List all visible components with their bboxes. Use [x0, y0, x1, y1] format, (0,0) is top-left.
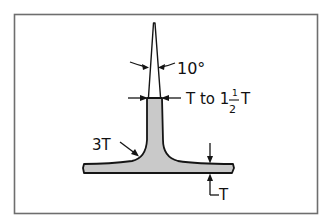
rib-width-label: T to 1	[185, 90, 229, 108]
rib-width-fraction-numerator: 1	[232, 88, 238, 98]
rib-width-fraction-denominator: 2	[229, 103, 236, 116]
diagram-canvas: 10° T to 1 1 2 T 3T T	[0, 0, 333, 219]
figure-frame	[15, 15, 318, 214]
wall-thickness-label: T	[218, 186, 229, 204]
rib-width-suffix: T	[240, 90, 251, 108]
draft-angle-label: 10°	[177, 59, 205, 78]
fillet-radius-label: 3T	[92, 136, 112, 154]
